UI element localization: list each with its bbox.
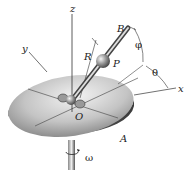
label-omega: ω (85, 153, 93, 163)
label-z: z (70, 4, 75, 14)
label-P: P (113, 59, 120, 69)
label-x: x (178, 84, 184, 94)
ball-P (96, 54, 110, 68)
disk-A (4, 68, 137, 145)
diagram-canvas: z y x B R P φ θ O A ω (0, 0, 193, 179)
label-R: R (84, 52, 92, 62)
x-axis (134, 88, 176, 95)
label-O: O (75, 112, 83, 122)
label-A: A (120, 134, 127, 144)
label-phi: φ (135, 40, 142, 50)
label-B: B (117, 24, 124, 34)
label-theta: θ (152, 68, 158, 78)
drive-shaft (68, 140, 75, 170)
y-axis-leader (29, 52, 47, 72)
mechanism-drawing (0, 0, 193, 179)
label-y: y (22, 44, 28, 54)
